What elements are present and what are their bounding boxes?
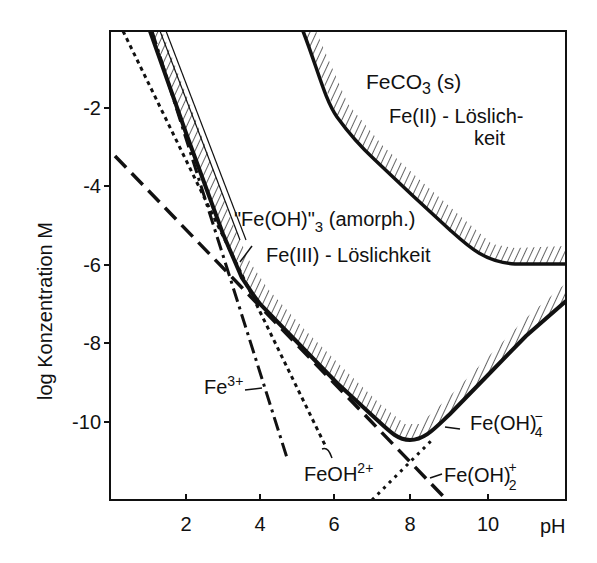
x-tick-label: 6 [328, 513, 339, 535]
feoh4-leader [445, 427, 460, 429]
x-axis-label: pH [540, 515, 566, 537]
y-axis-label: log Konzentration M [34, 222, 56, 400]
fe3-solubility-label: Fe(III) - Löslichkeit [266, 244, 431, 266]
y-tick-label: -10 [72, 411, 101, 433]
feoh-2plus-leader [322, 449, 332, 458]
solubility-chart: -2 -4 -6 -8 -10 2 4 6 8 10 pH log Konzen… [0, 0, 597, 563]
feoh4-minus-line [372, 440, 432, 500]
feoh3-label: "Fe(OH)"3 (amorph.) [234, 208, 415, 235]
x-tick-label: 10 [477, 513, 499, 535]
feco3-label: FeCO3 (s) [366, 70, 461, 97]
feoh2-plus-leader [430, 474, 442, 478]
y-tick-label: -6 [83, 254, 101, 276]
feoh2-plus-label: Fe(OH)2+ [444, 459, 517, 493]
y-tick-label: -8 [83, 332, 101, 354]
y-tick-label: -4 [83, 175, 101, 197]
fe3-plus-label: Fe3+ [204, 373, 243, 398]
feoh4-minus-label: Fe(OH)4− [470, 408, 543, 440]
x-tick-label: 2 [180, 513, 191, 535]
x-tick-label: 4 [254, 513, 265, 535]
fe2-solubility-label-2: keit [474, 127, 506, 149]
fe2-solubility-label-1: Fe(II) - Löslich- [389, 105, 523, 127]
x-tick-label: 8 [404, 513, 415, 535]
y-tick-label: -2 [83, 97, 101, 119]
fe3-leader [245, 388, 262, 390]
feoh-2plus-label: FeOH2+ [304, 460, 373, 485]
